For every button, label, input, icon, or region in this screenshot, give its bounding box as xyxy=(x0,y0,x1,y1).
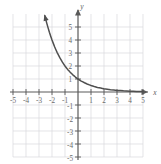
x-tick-label: 3 xyxy=(115,97,119,105)
y-tick-label: -5 xyxy=(67,155,73,163)
y-tick-label: 1 xyxy=(68,76,72,84)
y-tick-label: -3 xyxy=(67,129,73,137)
x-axis-label: x xyxy=(152,88,157,97)
y-axis xyxy=(75,9,81,160)
x-tick-label: -4 xyxy=(23,97,29,105)
y-axis-label: y xyxy=(79,2,84,11)
x-tick-label: -5 xyxy=(10,97,16,105)
y-tick-label: 4 xyxy=(68,37,72,45)
x-tick-label: 2 xyxy=(102,97,106,105)
y-tick-label: 3 xyxy=(68,50,72,58)
y-tick-label: -4 xyxy=(67,142,73,150)
x-tick-label: 5 xyxy=(141,97,145,105)
y-tick-label: 2 xyxy=(68,63,72,71)
coordinate-plane: -5 -4 -3 -2 -1 1 2 3 4 5 5 4 3 2 1 -1 -2… xyxy=(0,0,161,164)
y-tick-label: -1 xyxy=(67,103,73,111)
y-tick-label: 5 xyxy=(68,24,72,32)
x-tick-label: 4 xyxy=(128,97,132,105)
x-axis xyxy=(10,89,148,95)
y-tick-label: -2 xyxy=(67,116,73,124)
x-tick-label: -2 xyxy=(49,97,55,105)
x-tick-label: 1 xyxy=(89,97,93,105)
x-tick-label: -3 xyxy=(36,97,42,105)
graph-figure: -5 -4 -3 -2 -1 1 2 3 4 5 5 4 3 2 1 -1 -2… xyxy=(0,0,161,164)
